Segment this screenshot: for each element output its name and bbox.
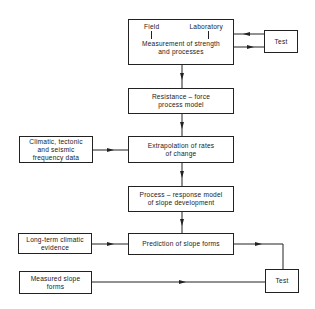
test-label: Test (276, 277, 289, 285)
laboratory-tick (208, 31, 209, 39)
arrow-prediction-to-test (234, 244, 283, 269)
extrapolation-line2: of change (166, 150, 197, 158)
longterm-climatic-box: Long-term climatic evidence (18, 233, 92, 254)
prediction-line1: Prediction of slope forms (142, 240, 220, 248)
field-label: Field (144, 23, 159, 31)
process-line2: of slope development (148, 199, 215, 207)
laboratory-label: Laboratory (189, 23, 223, 31)
climatic-line2: and seismic (37, 146, 74, 154)
process-line1: Process – response model (140, 191, 223, 199)
measured-line1: Measured slope (31, 275, 81, 283)
climatic-line1: Climatic, tectonic (29, 138, 82, 146)
resistance-box: Resistance – force process model (128, 88, 234, 114)
measured-line2: forms (47, 283, 64, 291)
measurement-line2: and processes (129, 48, 233, 56)
climatic-box: Climatic, tectonic and seismic frequency… (19, 136, 93, 163)
extrapolation-line1: Extrapolation of rates (148, 142, 215, 150)
prediction-box: Prediction of slope forms (128, 233, 234, 255)
test-box-top: Test (264, 30, 298, 53)
process-response-box: Process – response model of slope develo… (128, 186, 234, 212)
test-box-bottom: Test (265, 269, 299, 293)
measurement-line1: Measurement of strength (129, 40, 233, 48)
field-tick (151, 31, 152, 39)
resistance-line1: Resistance – force (152, 93, 210, 101)
test-label: Test (275, 38, 288, 46)
climatic-line3: frequency data (33, 154, 79, 162)
measured-slope-box: Measured slope forms (19, 271, 92, 294)
extrapolation-box: Extrapolation of rates of change (128, 136, 234, 163)
longterm-line1: Long-term climatic (26, 236, 83, 244)
measurement-box: Field Laboratory Measurement of strength… (128, 19, 234, 65)
resistance-line2: process model (158, 101, 203, 109)
longterm-line2: evidence (41, 244, 69, 252)
